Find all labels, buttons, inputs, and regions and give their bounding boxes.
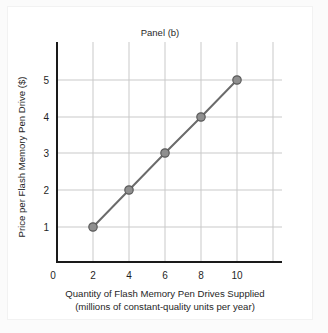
y-tick-label-2: 2 (43, 185, 49, 196)
y-axis-title: Price per Flash Memory Pen Drive ($) (16, 76, 27, 237)
y-tick-label-3: 3 (43, 148, 49, 159)
x-tick-label-6: 6 (162, 270, 168, 281)
chart-title: Panel (b) (141, 27, 180, 38)
x-axis-tick-labels: 0 2 4 6 8 10 (50, 270, 243, 281)
y-axis-tick-labels: 5 4 3 2 1 (43, 75, 49, 233)
data-point (233, 76, 241, 84)
figure-container: Panel (b) (0, 0, 328, 333)
y-tick-label-5: 5 (43, 75, 49, 86)
x-tick-label-0: 0 (50, 270, 56, 281)
vertical-gridlines (93, 42, 273, 262)
x-axis-title-line2: (millions of constant-quality units per … (75, 301, 255, 312)
x-tick-label-4: 4 (126, 270, 132, 281)
y-tick-label-4: 4 (43, 112, 49, 123)
x-tick-label-10: 10 (231, 270, 243, 281)
supply-curve-chart: Panel (b) (8, 7, 312, 319)
data-point (197, 113, 205, 121)
x-tick-label-2: 2 (90, 270, 96, 281)
x-tick-label-8: 8 (198, 270, 204, 281)
data-point (89, 223, 97, 231)
chart-plate: Panel (b) (8, 7, 312, 319)
x-axis-title-line1: Quantity of Flash Memory Pen Drives Supp… (65, 288, 264, 299)
y-tick-label-1: 1 (43, 222, 49, 233)
data-point (161, 149, 169, 157)
data-point (125, 186, 133, 194)
